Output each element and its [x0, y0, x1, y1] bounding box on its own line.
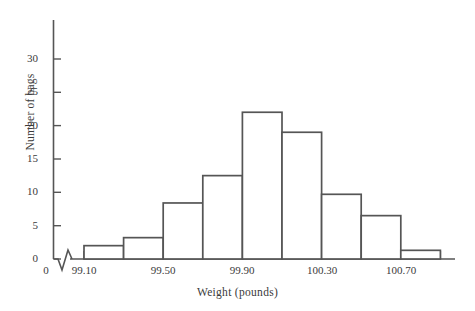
x-tick-label-99-50: 99.50 — [139, 264, 187, 276]
histogram-bar — [124, 238, 164, 259]
x-tick-label-99-10: 99.10 — [60, 264, 108, 276]
histogram-bar — [203, 176, 243, 259]
histogram-bar — [282, 132, 322, 259]
x-tick-label-origin: 0 — [34, 264, 58, 276]
y-tick-label-5: 5 — [4, 219, 38, 231]
histogram-bar — [84, 246, 124, 259]
histogram-bar — [163, 203, 203, 259]
x-tick-label-100-30: 100.30 — [294, 264, 350, 276]
histogram-bars — [84, 112, 440, 259]
x-tick-label-99-90: 99.90 — [218, 264, 266, 276]
y-tick-label-10: 10 — [4, 185, 38, 197]
histogram-figure: 0 5 10 15 20 25 30 0 99.10 99.50 99.90 1… — [0, 0, 475, 311]
histogram-bar — [401, 250, 441, 259]
histogram-bar — [322, 194, 362, 259]
histogram-bar — [361, 216, 401, 259]
y-tick-label-0: 0 — [4, 252, 38, 264]
histogram-bar — [242, 112, 282, 259]
x-tick-label-100-70: 100.70 — [373, 264, 429, 276]
x-axis-title: Weight (pounds) — [0, 286, 475, 298]
y-ticks — [54, 59, 62, 259]
y-axis-title: Number of bags — [24, 52, 36, 172]
